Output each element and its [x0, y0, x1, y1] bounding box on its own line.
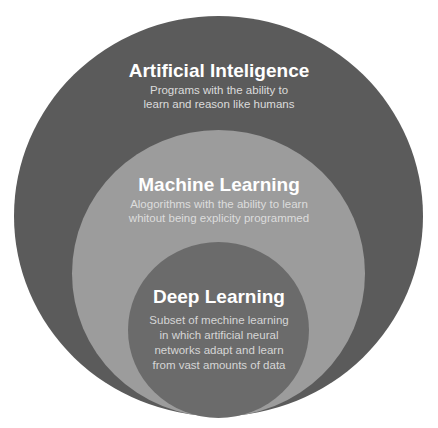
ai-description-line: learn and reason like humans: [0, 97, 438, 111]
ml-title: Machine Learning: [0, 174, 438, 196]
dl-title: Deep Learning: [0, 286, 438, 308]
ai-description: Programs with the ability to learn and r…: [0, 83, 438, 111]
ai-description-line: Programs with the ability to: [0, 83, 438, 97]
dl-description-line: networks adapt and learn: [0, 343, 438, 358]
ml-description-line: Alogorithms with the ability to learn: [0, 197, 438, 211]
dl-description-line: from vast amounts of data: [0, 358, 438, 373]
ml-description-line: whitout being explicity programmed: [0, 211, 438, 225]
dl-description-line: in which artificial neural: [0, 328, 438, 343]
dl-description: Subset of mechine learning in which arti…: [0, 313, 438, 373]
dl-description-line: Subset of mechine learning: [0, 313, 438, 328]
ml-description: Alogorithms with the ability to learn wh…: [0, 197, 438, 225]
ai-title: Artificial Inteligence: [0, 60, 438, 82]
